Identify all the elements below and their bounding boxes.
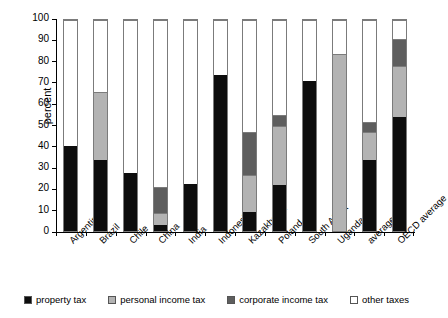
legend-label: personal income tax xyxy=(120,294,205,305)
bar-segment-other-taxes[interactable] xyxy=(184,20,197,184)
legend-item-personal-income-tax[interactable]: personal income tax xyxy=(108,294,205,305)
bar-india[interactable] xyxy=(183,19,198,232)
y-axis-tick-label: 70 xyxy=(38,76,49,87)
bar-segment-personal-income-tax[interactable] xyxy=(273,126,286,185)
chart-legend: property taxpersonal income taxcorporate… xyxy=(0,294,433,305)
bar-indonesia[interactable] xyxy=(213,19,228,232)
y-axis-tick-label: 10 xyxy=(38,204,49,215)
bar-segment-personal-income-tax[interactable] xyxy=(333,54,346,231)
y-axis-tick-label: 90 xyxy=(38,33,49,44)
y-axis-tick-mark xyxy=(52,40,56,41)
x-axis-tick xyxy=(325,232,326,236)
bar-segment-personal-income-tax[interactable] xyxy=(154,213,167,225)
legend-item-property-tax[interactable]: property tax xyxy=(24,294,86,305)
y-axis-tick-label: 50 xyxy=(38,119,49,130)
y-axis-tick-mark xyxy=(52,210,56,211)
bar-argentina[interactable] xyxy=(63,19,78,232)
bar-segment-personal-income-tax[interactable] xyxy=(243,175,256,212)
x-axis-tick xyxy=(384,232,385,236)
y-axis-tick-mark xyxy=(52,19,56,20)
legend-swatch-icon xyxy=(24,296,32,304)
x-axis-tick xyxy=(265,232,266,236)
bar-segment-corporate-income-tax[interactable] xyxy=(273,115,286,126)
bar-segment-other-taxes[interactable] xyxy=(393,20,406,39)
y-axis-tick-label: 60 xyxy=(38,97,49,108)
bar-segment-other-taxes[interactable] xyxy=(303,20,316,81)
bar-segment-property-tax[interactable] xyxy=(64,146,77,231)
bar-segment-other-taxes[interactable] xyxy=(214,20,227,75)
bar-segment-other-taxes[interactable] xyxy=(124,20,137,173)
bar-segment-corporate-income-tax[interactable] xyxy=(363,122,376,131)
y-axis-tick-mark xyxy=(52,82,56,83)
x-axis-tick xyxy=(116,232,117,236)
legend-swatch-icon xyxy=(227,296,235,304)
bar-brazil[interactable] xyxy=(93,19,108,232)
bar-segment-property-tax[interactable] xyxy=(184,184,197,231)
bar-china[interactable] xyxy=(153,19,168,232)
bar-segment-property-tax[interactable] xyxy=(273,185,286,231)
y-axis-tick-label: 40 xyxy=(38,140,49,151)
bar-segment-personal-income-tax[interactable] xyxy=(363,132,376,160)
legend-swatch-icon xyxy=(350,296,358,304)
y-axis-tick-label: 80 xyxy=(38,55,49,66)
bar-south-africa[interactable] xyxy=(302,19,317,232)
plot-area: 0102030405060708090100ArgentinaBrazilChi… xyxy=(56,19,414,232)
legend-item-corporate-income-tax[interactable]: corporate income tax xyxy=(227,294,328,305)
legend-label: property tax xyxy=(36,294,86,305)
y-axis-tick-mark xyxy=(52,168,56,169)
legend-label: other taxes xyxy=(362,294,409,305)
x-axis-tick xyxy=(235,232,236,236)
y-axis-tick-label: 20 xyxy=(38,182,49,193)
bar-segment-property-tax[interactable] xyxy=(94,160,107,231)
bar-segment-personal-income-tax[interactable] xyxy=(393,66,406,117)
y-axis-tick-mark xyxy=(52,189,56,190)
bar-segment-property-tax[interactable] xyxy=(303,81,316,231)
legend-swatch-icon xyxy=(108,296,116,304)
x-axis-tick xyxy=(86,232,87,236)
x-axis-tick xyxy=(175,232,176,236)
y-axis-tick-mark xyxy=(52,125,56,126)
legend-item-other-taxes[interactable]: other taxes xyxy=(350,294,409,305)
legend-label: corporate income tax xyxy=(239,294,328,305)
bar-segment-property-tax[interactable] xyxy=(214,75,227,231)
bar-average[interactable] xyxy=(362,19,377,232)
y-axis-tick-mark xyxy=(52,104,56,105)
bar-segment-corporate-income-tax[interactable] xyxy=(154,187,167,213)
x-axis-tick xyxy=(354,232,355,236)
bar-segment-personal-income-tax[interactable] xyxy=(94,92,107,161)
bar-segment-other-taxes[interactable] xyxy=(94,20,107,92)
bar-segment-other-taxes[interactable] xyxy=(363,20,376,122)
bar-segment-property-tax[interactable] xyxy=(363,160,376,231)
bar-oecd-average[interactable] xyxy=(392,19,407,232)
bar-segment-corporate-income-tax[interactable] xyxy=(393,39,406,66)
y-axis-tick-label: 30 xyxy=(38,161,49,172)
x-axis-tick xyxy=(295,232,296,236)
bar-chile[interactable] xyxy=(123,19,138,232)
bar-segment-other-taxes[interactable] xyxy=(333,20,346,54)
bar-poland[interactable] xyxy=(272,19,287,232)
bar-segment-other-taxes[interactable] xyxy=(243,20,256,132)
bar-segment-other-taxes[interactable] xyxy=(273,20,286,115)
bar-segment-corporate-income-tax[interactable] xyxy=(243,132,256,175)
bar-kazakhstan[interactable] xyxy=(242,19,257,232)
bar-segment-other-taxes[interactable] xyxy=(64,20,77,146)
y-axis-tick-mark xyxy=(52,146,56,147)
bar-segment-property-tax[interactable] xyxy=(124,173,137,231)
x-axis-tick xyxy=(56,232,57,236)
x-axis-tick xyxy=(205,232,206,236)
y-axis-tick-mark xyxy=(52,61,56,62)
bar-segment-property-tax[interactable] xyxy=(393,117,406,231)
x-axis-tick xyxy=(146,232,147,236)
y-axis-tick-label: 0 xyxy=(43,225,49,236)
bar-segment-other-taxes[interactable] xyxy=(154,20,167,187)
y-axis-tick-label: 100 xyxy=(32,12,49,23)
bar-uganda[interactable] xyxy=(332,19,347,232)
x-axis-tick xyxy=(413,232,414,236)
